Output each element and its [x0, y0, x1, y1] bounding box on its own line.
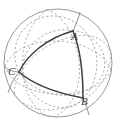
meridian-ellipse-right-arc — [47, 10, 79, 118]
equator-ellipse-hidden-arc — [5, 41, 111, 70]
vertex-label-C: C — [8, 66, 15, 77]
great-circle-1-visible-tail — [73, 12, 80, 31]
spherical-triangle-figure: A B C — [0, 0, 122, 127]
sphere-diagram-canvas — [0, 0, 122, 127]
vertex-label-B: B — [81, 96, 88, 107]
vertex-label-A: A — [71, 31, 78, 42]
equator-ellipse-front-arc — [5, 66, 111, 94]
